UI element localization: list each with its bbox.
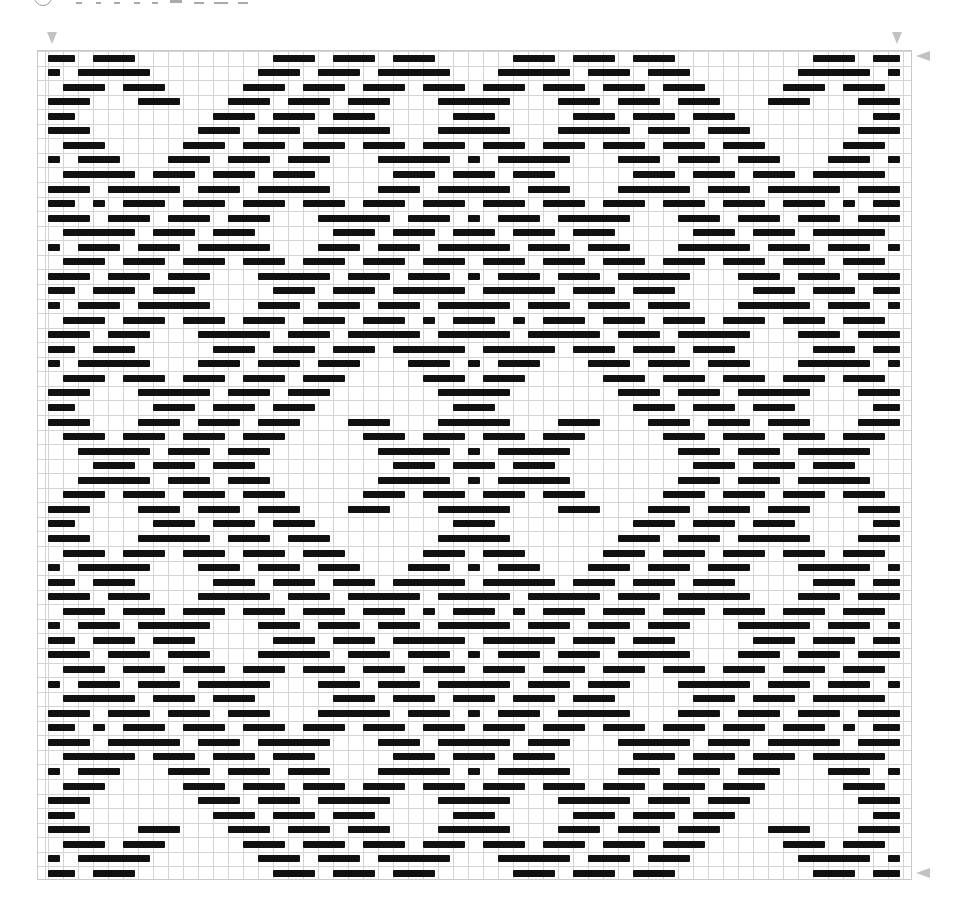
float-bar	[303, 783, 345, 790]
float-bar	[543, 258, 585, 265]
float-bar	[183, 666, 225, 673]
float-bar	[48, 870, 75, 877]
float-bar	[423, 841, 465, 848]
float-bar	[783, 550, 825, 557]
float-bar	[723, 317, 765, 324]
float-bar	[198, 186, 240, 193]
float-bar	[813, 695, 885, 702]
float-bar	[363, 258, 405, 265]
float-bar	[348, 419, 390, 426]
float-bar	[273, 637, 315, 644]
float-bar	[318, 564, 360, 571]
float-bar	[48, 826, 90, 833]
float-bar	[63, 258, 105, 265]
float-bar	[483, 841, 525, 848]
float-bar	[483, 637, 555, 644]
float-bar	[423, 258, 465, 265]
float-bar	[198, 244, 270, 251]
float-bar	[93, 870, 135, 877]
float-bar	[213, 520, 255, 527]
float-bar	[138, 419, 180, 426]
float-bar	[213, 229, 255, 236]
float-bar	[48, 622, 60, 629]
float-bar	[558, 273, 600, 280]
float-bar	[693, 579, 735, 586]
float-bar	[558, 506, 600, 513]
float-bar	[723, 666, 765, 673]
float-bar	[423, 783, 465, 790]
float-bar	[138, 826, 180, 833]
float-bar	[183, 783, 225, 790]
float-bar	[858, 389, 900, 396]
float-bar	[873, 113, 900, 120]
float-bar	[618, 156, 660, 163]
float-bar	[243, 433, 285, 440]
float-bar	[588, 564, 630, 571]
float-bar	[708, 186, 750, 193]
float-bar	[183, 550, 225, 557]
float-bar	[243, 783, 285, 790]
float-bar	[528, 622, 570, 629]
float-bar	[78, 477, 150, 484]
float-bar	[768, 186, 840, 193]
float-bar	[363, 84, 405, 91]
float-bar	[48, 186, 90, 193]
float-bar	[258, 564, 300, 571]
float-bar	[438, 389, 510, 396]
float-bar	[828, 156, 870, 163]
float-bar	[723, 783, 765, 790]
float-bar	[843, 783, 885, 790]
float-bar	[63, 783, 105, 790]
float-bar	[543, 491, 585, 498]
float-bar	[273, 346, 315, 353]
float-bar	[483, 346, 555, 353]
float-bar	[138, 681, 180, 688]
float-bar	[48, 637, 75, 644]
float-bar	[723, 142, 765, 149]
float-bar	[258, 69, 300, 76]
float-bar	[798, 69, 870, 76]
float-bar	[228, 768, 270, 775]
float-bar	[813, 55, 855, 62]
float-bar	[768, 98, 810, 105]
float-bar	[513, 462, 555, 469]
float-bar	[63, 695, 135, 702]
float-bar	[498, 651, 540, 658]
float-bar	[798, 564, 870, 571]
float-bar	[108, 593, 150, 600]
float-bar	[273, 113, 315, 120]
float-bar	[573, 113, 615, 120]
float-bar	[48, 520, 75, 527]
float-bar	[438, 302, 510, 309]
float-bar	[603, 608, 645, 615]
float-bar	[633, 579, 675, 586]
float-bar	[48, 215, 90, 222]
float-bar	[633, 113, 675, 120]
float-bar	[888, 855, 900, 862]
float-bar	[618, 768, 660, 775]
float-bar	[528, 186, 570, 193]
float-bar	[798, 448, 870, 455]
float-bar	[198, 564, 240, 571]
float-bar	[828, 622, 870, 629]
float-bar	[348, 98, 390, 105]
float-bar	[663, 724, 705, 731]
float-bar	[843, 433, 885, 440]
float-bar	[438, 419, 510, 426]
float-bar	[738, 215, 780, 222]
float-bar	[198, 593, 270, 600]
float-bar	[363, 724, 405, 731]
float-bar	[243, 84, 285, 91]
float-bar	[813, 229, 885, 236]
float-bar	[873, 200, 900, 207]
float-bar	[243, 724, 285, 731]
float-bar	[498, 360, 540, 367]
float-bar	[708, 739, 750, 746]
float-bar	[48, 156, 60, 163]
float-bar	[693, 753, 735, 760]
float-bar	[438, 186, 510, 193]
float-bar	[378, 186, 420, 193]
float-bar	[48, 724, 75, 731]
float-bar	[663, 608, 705, 615]
float-bar	[378, 69, 450, 76]
